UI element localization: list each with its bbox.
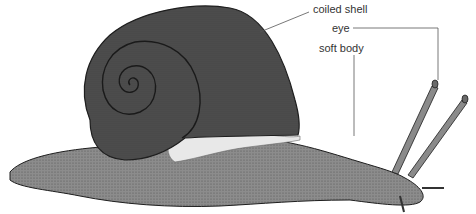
snail-illustration	[0, 0, 476, 214]
label-eye: eye	[332, 22, 350, 34]
label-soft-body: soft body	[319, 42, 364, 54]
label-coiled-shell: coiled shell	[313, 3, 367, 15]
snail-diagram: coiled shell eye soft body	[0, 0, 476, 214]
